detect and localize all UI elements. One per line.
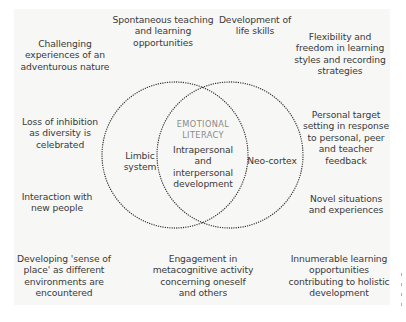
label-novel-situations: Novel situations and experiences [304, 193, 388, 216]
page-edge-marks [401, 273, 404, 313]
label-sense-of-place: Developing 'sense of place' as different… [13, 253, 115, 299]
label-loss-of-inhibition: Loss of inhibition as diversity is celeb… [12, 116, 108, 150]
label-flexibility-freedom: Flexibility and freedom in learning styl… [293, 31, 387, 77]
label-neo-cortex: Neo-cortex [245, 155, 299, 166]
label-challenging-experiences: Challenging experiences of an adventurou… [10, 38, 120, 72]
label-metacognitive-activity: Engagement in metacognitive activity con… [150, 253, 256, 299]
label-interaction-new-people: Interaction with new people [14, 191, 100, 214]
label-limbic-system: Limbic system [118, 150, 162, 173]
emotional-literacy-title: EMOTIONAL LITERACY [163, 119, 243, 141]
label-spontaneous-teaching: Spontaneous teaching and learning opport… [108, 14, 218, 48]
label-innumerable-learning: Innumerable learning opportunities contr… [284, 253, 394, 299]
intersection-text: Intrapersonal and interpersonal developm… [163, 144, 243, 190]
label-personal-target-setting: Personal target setting in response to p… [302, 109, 390, 166]
label-life-skills: Development of life skills [215, 14, 295, 37]
